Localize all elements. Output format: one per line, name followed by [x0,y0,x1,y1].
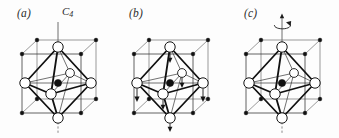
corner-atom [259,38,263,42]
unit-cell-diagram-b [112,0,225,138]
ligand-atom-back [178,69,187,78]
corner-atom [20,111,24,115]
ligand-atom-front [270,89,280,99]
oct-edge-top-right-b [170,47,203,83]
corner-atom [94,38,98,42]
corner-atom [191,111,195,115]
corner-atom [318,38,322,42]
corner-atom [244,52,248,56]
corner-atom [94,97,98,101]
ligand-atom-left [20,78,30,88]
cube-connector-br-c [305,99,320,113]
ligand-atom-front [46,89,56,99]
center-atom [166,79,173,86]
ligand-atom-back [290,69,299,78]
cube-connector-br-a [81,99,96,113]
corner-atom [147,97,151,101]
ligand-atom-left [244,78,254,88]
unit-cell-diagram-c [224,0,337,138]
cube-connector-tl-c [246,40,261,54]
rotation-arrow-icon [274,13,291,28]
corner-atom [132,52,136,56]
cube-connector-br-b [193,99,208,113]
corner-atom [79,111,83,115]
center-atom [54,79,61,86]
corner-atom [191,52,195,56]
ligand-atom-back [66,69,75,78]
ligand-atom-left [132,78,142,88]
ligand-atom-bottom [277,113,287,123]
oct-edge-top-right-a [58,47,91,83]
corner-atom [244,111,248,115]
unit-cell-diagram-a [0,0,113,138]
corner-atom [206,97,210,101]
cube-connector-tr-a [81,40,96,54]
corner-atom [35,97,39,101]
panel-c: (c) [224,0,337,138]
panel-b: (b) [112,0,225,138]
cube-connector-tr-c [305,40,320,54]
figure-root: (a) C4 [0,0,339,138]
cube-connector-bl-a [22,99,37,113]
corner-atom [20,52,24,56]
ligand-atom-bottom [165,113,175,123]
oct-edge-top-right-c [282,47,315,83]
corner-atom [79,52,83,56]
corner-atom [259,97,263,101]
cube-connector-bl-c [246,99,261,113]
corner-atom [35,38,39,42]
cube-connector-tr-b [193,40,208,54]
corner-atom [303,111,307,115]
ligand-atom-top [165,42,175,52]
ligand-atom-top [53,42,63,52]
cube-connector-tl-a [22,40,37,54]
displacement-arrow-bottom [168,124,173,132]
displacement-arrow-left [134,89,139,102]
panel-a: (a) C4 [0,0,113,138]
ligand-atom-top [277,42,287,52]
ligand-atom-right [310,78,320,88]
ligand-atom-right [86,78,96,88]
ligand-atom-right [198,78,208,88]
corner-atom [303,52,307,56]
corner-atom [132,111,136,115]
center-atom [278,79,285,86]
ligand-atom-front [158,89,168,99]
corner-atom [206,38,210,42]
corner-atom [147,38,151,42]
ligand-atom-bottom [53,113,63,123]
corner-atom [318,97,322,101]
cube-connector-bl-b [134,99,149,113]
cube-connector-tl-b [134,40,149,54]
displacement-arrow-right [200,89,205,102]
